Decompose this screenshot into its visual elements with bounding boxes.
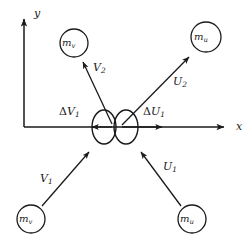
vector-label-U2: U2: [173, 76, 187, 89]
mass-label-mu-top: mu: [194, 32, 208, 44]
vector-label-V2: V2: [93, 62, 106, 75]
y-axis-label: y: [34, 8, 40, 19]
vector-label-V1: V1: [40, 173, 53, 186]
vector-label-delta-U1: ΔU1: [143, 106, 165, 119]
vector-label-U1: U1: [163, 161, 177, 174]
vector-label-delta-V1: ΔV1: [59, 106, 80, 119]
diagram-canvas: [0, 0, 251, 246]
mass-label-mv-top: mv: [62, 38, 75, 50]
collision-diagram: x y mv mu mv mu V1 U1 V2 U2 ΔV1 ΔU1: [0, 0, 251, 246]
mass-label-mu-bottom: mu: [180, 214, 194, 226]
mass-label-mv-bottom: mv: [19, 214, 32, 226]
x-axis-label: x: [236, 121, 242, 132]
